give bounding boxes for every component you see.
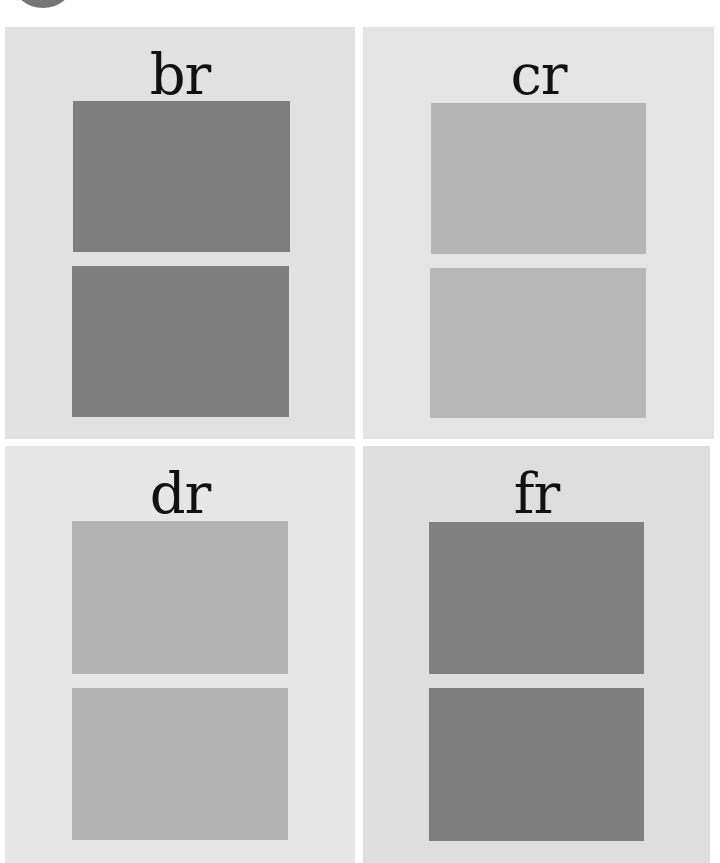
swatch-bottom [430, 268, 646, 418]
panel-br: br [5, 27, 355, 439]
swatch-top [429, 522, 644, 674]
swatch-bottom [72, 688, 288, 840]
panel-cr: cr [363, 27, 714, 439]
panel-label: fr [363, 466, 710, 522]
panel-label: br [5, 47, 355, 103]
panel-fr: fr [363, 446, 710, 863]
panel-label: dr [5, 466, 355, 522]
swatch-top [431, 103, 646, 254]
panel-label: cr [363, 47, 714, 103]
swatch-bottom [429, 688, 644, 841]
swatch-top [73, 101, 290, 252]
swatch-bottom [72, 266, 289, 417]
corner-circle-decoration [14, 0, 72, 8]
panel-dr: dr [5, 446, 355, 863]
swatch-top [72, 521, 288, 674]
